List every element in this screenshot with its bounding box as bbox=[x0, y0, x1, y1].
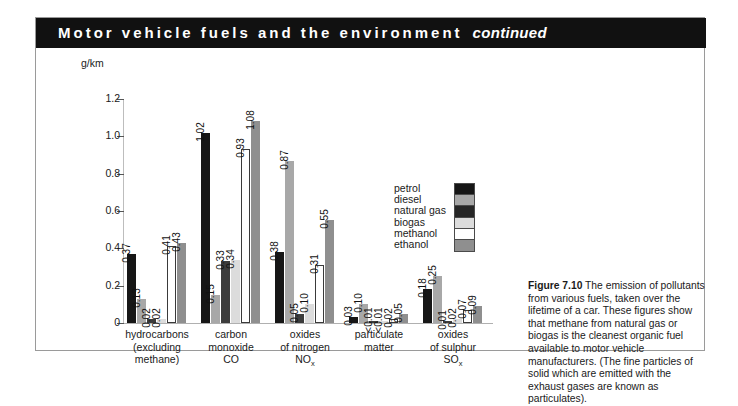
bar-value-label: 0.15 bbox=[205, 284, 216, 303]
bar-ethanol-3: 0.05 bbox=[399, 314, 408, 323]
figure-caption-body: The emission of pollutants from various … bbox=[528, 280, 705, 404]
bar-biogas-4: 0.02 bbox=[453, 319, 462, 323]
x-axis-group-label-line: NOx bbox=[261, 353, 349, 371]
bar-value-label: 0.38 bbox=[269, 241, 280, 260]
legend-swatch-methanol bbox=[455, 229, 474, 240]
legend-swatch-biogas bbox=[455, 218, 474, 229]
legend-swatch-diesel bbox=[455, 195, 474, 206]
chart-legend: petroldieselnatural gasbiogasmethanoleth… bbox=[394, 183, 476, 250]
bar-value-label: 0.43 bbox=[171, 232, 182, 251]
bar-value-label: 0.93 bbox=[235, 139, 246, 158]
legend-swatches bbox=[454, 183, 475, 252]
y-axis-unit-label: g/km bbox=[81, 57, 104, 69]
legend-item-label: diesel bbox=[394, 193, 421, 205]
bar-biogas-1: 0.34 bbox=[231, 260, 240, 323]
y-axis-line bbox=[123, 100, 124, 324]
bar-value-label: 0.37 bbox=[121, 243, 132, 262]
bar-biogas-2: 0.10 bbox=[305, 304, 314, 323]
legend-item-label: petrol bbox=[394, 182, 420, 194]
x-axis-group-label-line: oxides bbox=[409, 328, 497, 341]
bar-petrol-4: 0.18 bbox=[423, 289, 432, 323]
bar-methanol-1: 0.93 bbox=[241, 149, 250, 323]
bar-petrol-3: 0.03 bbox=[349, 317, 358, 323]
bar-value-label: 0.05 bbox=[393, 303, 404, 322]
bar-value-label: 0.02 bbox=[151, 309, 162, 328]
bar-value-label: 0.31 bbox=[309, 254, 320, 273]
figure-caption-title: Figure 7.10 bbox=[528, 280, 582, 291]
bar-methanol-0: 0.41 bbox=[167, 246, 176, 323]
bar-value-label: 0.09 bbox=[467, 295, 478, 314]
y-axis-tick-label: 1.2 bbox=[105, 92, 120, 104]
bar-diesel-2: 0.87 bbox=[285, 161, 294, 323]
bar-value-label: 0.55 bbox=[319, 210, 330, 229]
bar-ethanol-1: 1.08 bbox=[251, 121, 260, 323]
x-axis-group-label-line: SOx bbox=[409, 353, 497, 371]
legend-swatch-natural-gas bbox=[455, 206, 474, 217]
bar-chart: g/km 00.20.40.60.81.01.2 0.370.130.020.0… bbox=[36, 48, 706, 351]
legend-item-label: natural gas bbox=[394, 204, 446, 216]
header-title-text: Motor vehicle fuels and the environment bbox=[58, 24, 463, 41]
y-axis-tick-label: 0.2 bbox=[105, 279, 120, 291]
y-axis-tick-label: 0 bbox=[114, 316, 120, 328]
header-bar: Motor vehicle fuels and the environmentc… bbox=[36, 18, 706, 48]
y-axis-tick-label: 1.0 bbox=[105, 129, 120, 141]
bar-value-label: 1.08 bbox=[245, 111, 256, 130]
bar-natural-gas-1: 0.33 bbox=[221, 261, 230, 323]
bar-diesel-1: 0.15 bbox=[211, 295, 220, 323]
bar-petrol-2: 0.38 bbox=[275, 252, 284, 323]
bar-value-label: 0.13 bbox=[131, 288, 142, 307]
bar-value-label: 1.02 bbox=[195, 122, 206, 141]
x-axis-group-label: oxidesof sulphurSOx bbox=[409, 328, 497, 371]
bar-value-label: 0.10 bbox=[299, 294, 310, 313]
bar-methanol-2: 0.31 bbox=[315, 265, 324, 323]
y-axis-tick-label: 0.4 bbox=[105, 241, 120, 253]
bar-biogas-0: 0.02 bbox=[157, 319, 166, 323]
legend-swatch-petrol bbox=[455, 184, 474, 195]
y-axis-tick-label: 0.6 bbox=[105, 204, 120, 216]
x-axis-group-label-line: of sulphur bbox=[409, 341, 497, 354]
bar-ethanol-2: 0.55 bbox=[325, 220, 334, 323]
bar-value-label: 0.87 bbox=[279, 150, 290, 169]
page-title: Motor vehicle fuels and the environmentc… bbox=[58, 24, 547, 41]
y-axis-tick-label: 0.8 bbox=[105, 167, 120, 179]
header-continued-text: continued bbox=[473, 24, 547, 41]
bar-natural-gas-2: 0.05 bbox=[295, 314, 304, 323]
bar-value-label: 0.34 bbox=[225, 249, 236, 268]
bar-ethanol-0: 0.43 bbox=[177, 243, 186, 323]
bar-value-label: 0.25 bbox=[427, 266, 438, 285]
legend-item-label: biogas bbox=[394, 216, 425, 228]
legend-item-label: methanol bbox=[394, 227, 437, 239]
bar-ethanol-4: 0.09 bbox=[473, 306, 482, 323]
legend-item-label: ethanol bbox=[394, 238, 428, 250]
figure-frame: Motor vehicle fuels and the environmentc… bbox=[35, 17, 705, 351]
legend-swatch-ethanol bbox=[455, 240, 474, 251]
figure-caption: Figure 7.10 The emission of pollutants f… bbox=[528, 280, 708, 406]
